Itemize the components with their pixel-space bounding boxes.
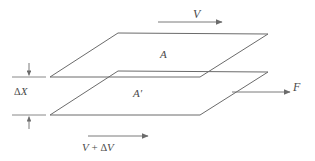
force-text: F	[293, 80, 300, 94]
separation-var-text: X	[21, 85, 28, 97]
velocity-bottom-base-text: V	[82, 141, 89, 153]
bottom-plate	[50, 71, 268, 115]
diagram-canvas	[0, 0, 315, 161]
velocity-bottom-var-text: V	[107, 141, 114, 153]
velocity-top-label: V	[193, 8, 200, 20]
area-top-label: A	[160, 49, 167, 60]
area-bottom-prime: ′	[140, 87, 142, 99]
plus-icon: +	[89, 141, 101, 153]
area-top-text: A	[160, 48, 167, 60]
force-label: F	[293, 81, 300, 93]
area-bottom-label: A′	[133, 88, 142, 99]
velocity-top-text: V	[193, 7, 200, 21]
viscosity-shear-diagram: V A A′ F ΔX V + ΔV	[0, 0, 315, 161]
area-bottom-text: A	[133, 87, 140, 99]
velocity-bottom-label: V + ΔV	[82, 142, 114, 153]
top-plate	[50, 33, 268, 77]
delta-icon: Δ	[14, 86, 21, 97]
separation-label: ΔX	[14, 86, 27, 97]
